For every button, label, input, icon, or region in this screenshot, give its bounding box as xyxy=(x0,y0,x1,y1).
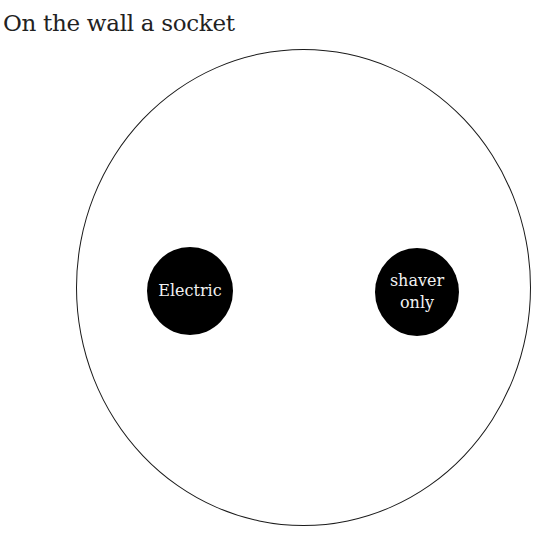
electric-socket-hole: Electric xyxy=(147,247,233,335)
shaver-label-line2: only xyxy=(400,292,434,314)
electric-label: Electric xyxy=(158,280,221,302)
shaver-label-line1: shaver xyxy=(390,270,444,292)
shaver-socket-hole: shaver only xyxy=(375,248,459,336)
diagram-title: On the wall a socket xyxy=(3,10,235,36)
socket-faceplate xyxy=(76,49,531,526)
